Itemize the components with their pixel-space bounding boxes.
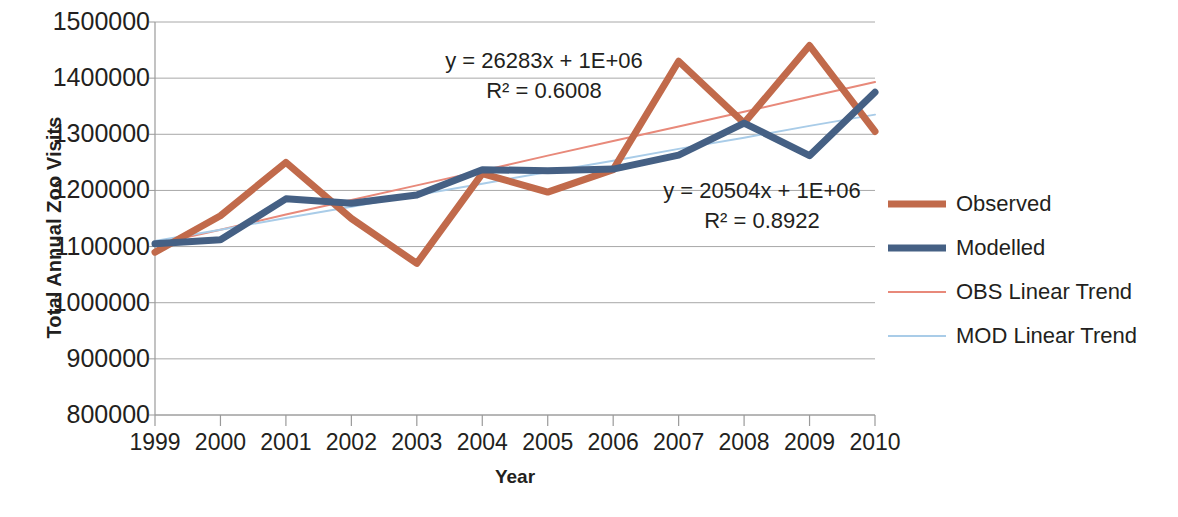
legend-swatch-icon [888, 285, 946, 299]
legend-item-observed[interactable]: Observed [888, 182, 1178, 226]
x-axis-tick-label: 2004 [446, 427, 518, 457]
x-axis-tick-label: 2003 [381, 427, 453, 457]
x-axis-tick-label: 2009 [774, 427, 846, 457]
legend-swatch-icon [888, 197, 946, 211]
x-axis-tick-label: 2001 [250, 427, 322, 457]
zoo-visits-line-chart: Total Annual Zoo Visits 1500000140000013… [0, 0, 1178, 517]
obs-trend-equation-annotation: y = 26283x + 1E+06 R² = 0.6008 [404, 46, 684, 106]
x-axis-tick-label: 2008 [708, 427, 780, 457]
x-axis-tick-label: 2010 [839, 427, 911, 457]
obs-trend-equation-text: y = 26283x + 1E+06 [404, 46, 684, 76]
legend-label: MOD Linear Trend [956, 324, 1137, 348]
mod-trend-equation-annotation: y = 20504x + 1E+06 R² = 0.8922 [632, 176, 892, 236]
legend-item-obs-linear-trend[interactable]: OBS Linear Trend [888, 270, 1178, 314]
x-axis-tick-label: 2002 [315, 427, 387, 457]
legend-swatch-icon [888, 241, 946, 255]
legend-swatch-icon [888, 329, 946, 343]
legend-item-mod-linear-trend[interactable]: MOD Linear Trend [888, 314, 1178, 358]
mod-trend-r-squared-text: R² = 0.8922 [632, 206, 892, 236]
legend-label: OBS Linear Trend [956, 280, 1132, 304]
legend-label: Observed [956, 192, 1051, 216]
x-axis-title: Year [155, 466, 875, 488]
chart-legend: ObservedModelledOBS Linear TrendMOD Line… [888, 182, 1178, 358]
x-axis-tick-labels: 1999200020012002200320042005200620072008… [155, 427, 875, 461]
x-axis-tick-label: 2007 [643, 427, 715, 457]
x-axis-tick-label: 2000 [184, 427, 256, 457]
x-axis-ticks [155, 415, 875, 426]
mod-trend-equation-text: y = 20504x + 1E+06 [632, 176, 892, 206]
x-axis-tick-label: 1999 [119, 427, 191, 457]
x-axis-tick-label: 2006 [577, 427, 649, 457]
x-axis-tick-label: 2005 [512, 427, 584, 457]
obs-trend-r-squared-text: R² = 0.6008 [404, 76, 684, 106]
legend-label: Modelled [956, 236, 1045, 260]
legend-item-modelled[interactable]: Modelled [888, 226, 1178, 270]
